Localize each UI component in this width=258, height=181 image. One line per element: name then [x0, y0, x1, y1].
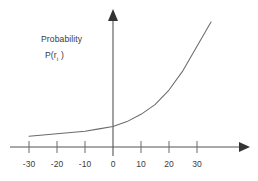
- probability-label-line1: Probability: [41, 33, 82, 45]
- y-axis-arrow-icon: [108, 9, 118, 21]
- tick-label: -20: [51, 159, 64, 169]
- tick-label: 20: [164, 159, 174, 169]
- probability-figure: -30 -20 -10 0 10 20 30 Probability P(ri …: [0, 0, 258, 181]
- x-axis-arrow-icon: [239, 142, 250, 152]
- tick-label: -10: [79, 159, 92, 169]
- plot-area: -30 -20 -10 0 10 20 30: [0, 0, 258, 181]
- tick-label: 0: [111, 159, 116, 169]
- probability-label-suffix: ): [59, 50, 64, 60]
- tick-label: 30: [192, 159, 202, 169]
- probability-label-prefix: P(r: [45, 50, 57, 60]
- tick-label: -30: [23, 159, 36, 169]
- probability-label-line2: P(ri ): [45, 49, 64, 65]
- x-axis-tick-labels: -30 -20 -10 0 10 20 30: [23, 159, 202, 169]
- tick-label: 10: [136, 159, 146, 169]
